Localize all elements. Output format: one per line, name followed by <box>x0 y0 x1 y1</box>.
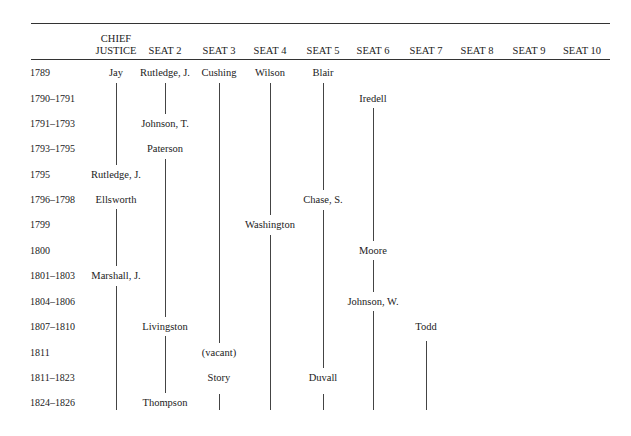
tenure-line <box>373 260 374 292</box>
justice-name: Rutledge, J. <box>91 169 141 180</box>
year-label: 1799 <box>30 219 50 230</box>
justice-name: Blair <box>313 67 334 78</box>
justice-name: Livingston <box>142 321 188 332</box>
tenure-line <box>116 83 117 165</box>
tenure-line <box>373 311 374 410</box>
header-line-1 <box>547 33 617 45</box>
justice-name: Paterson <box>147 143 183 154</box>
justice-name: Cushing <box>201 67 236 78</box>
year-label: 1796–1798 <box>30 194 75 205</box>
justice-name: Iredell <box>359 93 386 104</box>
tenure-line <box>323 83 324 190</box>
header-line-2: SEAT 10 <box>547 45 617 57</box>
justice-name: (vacant) <box>202 347 236 358</box>
tenure-line <box>116 286 117 410</box>
year-label: 1793–1795 <box>30 143 75 154</box>
tenure-line <box>219 394 220 410</box>
column-header-s10: SEAT 10 <box>547 33 617 57</box>
justice-name: Jay <box>109 67 123 78</box>
tenure-line <box>323 210 324 368</box>
year-label: 1811 <box>30 347 50 358</box>
tenure-line <box>165 83 166 114</box>
year-label: 1789 <box>30 67 50 78</box>
year-label: 1801–1803 <box>30 270 75 281</box>
tenure-line <box>116 209 117 266</box>
tenure-line <box>426 341 427 410</box>
top-rule <box>31 23 610 24</box>
year-label: 1800 <box>30 245 50 256</box>
justice-name: Marshall, J. <box>91 270 140 281</box>
tenure-line <box>165 336 166 393</box>
justice-name: Johnson, T. <box>141 118 189 129</box>
year-label: 1795 <box>30 169 50 180</box>
justice-name: Rutledge, J. <box>140 67 190 78</box>
year-label: 1790–1791 <box>30 93 75 104</box>
tenure-line <box>219 83 220 343</box>
justice-name: Story <box>208 372 231 383</box>
justice-name: Chase, S. <box>303 194 342 205</box>
justice-name: Todd <box>415 321 436 332</box>
justice-name: Washington <box>245 219 295 230</box>
justice-name: Johnson, W. <box>347 296 398 307</box>
tenure-line <box>323 394 324 410</box>
year-label: 1807–1810 <box>30 321 75 332</box>
justice-name: Moore <box>359 245 387 256</box>
year-label: 1804–1806 <box>30 296 75 307</box>
justice-name: Wilson <box>255 67 285 78</box>
tenure-line <box>373 108 374 241</box>
tenure-line <box>270 83 271 215</box>
justice-name: Duvall <box>309 372 338 383</box>
year-label: 1791–1793 <box>30 118 75 129</box>
year-label: 1811–1823 <box>30 372 75 383</box>
justice-name: Thompson <box>143 397 188 408</box>
header-rule <box>31 59 610 60</box>
year-label: 1824–1826 <box>30 397 75 408</box>
tenure-line <box>270 235 271 410</box>
tenure-line <box>165 159 166 317</box>
justice-name: Ellsworth <box>96 194 137 205</box>
